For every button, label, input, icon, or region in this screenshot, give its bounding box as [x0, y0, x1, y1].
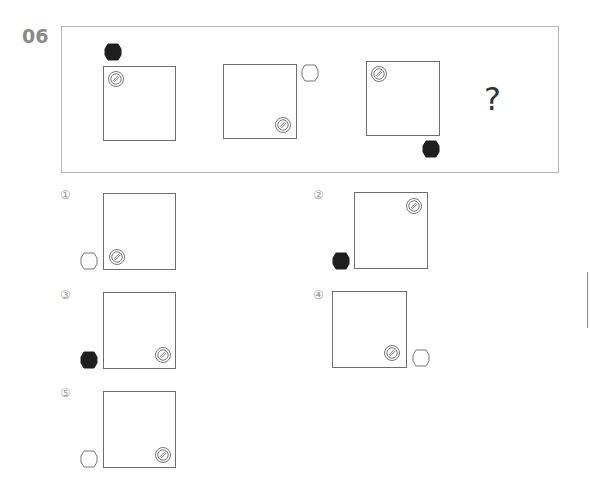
- option-4-label[interactable]: ④: [313, 288, 324, 302]
- hatched-circle-icon: [108, 248, 126, 266]
- scrollbar-indicator[interactable]: [587, 272, 588, 328]
- option-2-label[interactable]: ②: [313, 188, 324, 202]
- hatched-circle-icon: [154, 446, 172, 464]
- hatched-circle-icon: [274, 116, 292, 134]
- hexagon-icon: [422, 140, 440, 158]
- hatched-circle-icon: [383, 344, 401, 362]
- missing-panel-question-mark: ?: [484, 80, 501, 118]
- hexagon-icon: [80, 351, 98, 369]
- hexagon-icon: [412, 349, 430, 367]
- option-5-label[interactable]: ⑤: [60, 386, 71, 400]
- hexagon-icon: [104, 43, 122, 61]
- option-3-label[interactable]: ③: [60, 288, 71, 302]
- hexagon-icon: [80, 450, 98, 468]
- hatched-circle-icon: [154, 346, 172, 364]
- question-number: 06: [22, 25, 48, 47]
- hatched-circle-icon: [370, 65, 388, 83]
- hexagon-icon: [301, 64, 319, 82]
- hexagon-icon: [332, 252, 350, 270]
- hatched-circle-icon: [405, 197, 423, 215]
- option-1-label[interactable]: ①: [60, 188, 71, 202]
- hatched-circle-icon: [107, 70, 125, 88]
- hexagon-icon: [80, 252, 98, 270]
